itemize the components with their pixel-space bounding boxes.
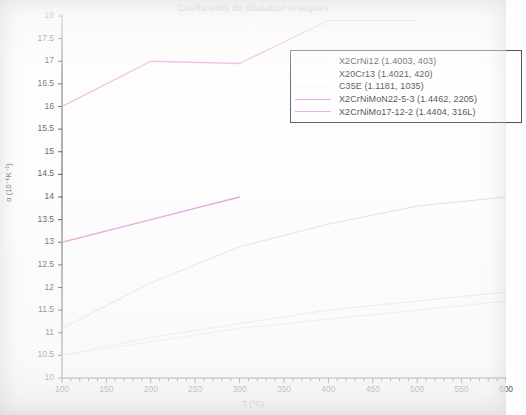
legend-color-swatch [295, 61, 331, 62]
x-tick-label: 500 [397, 384, 437, 394]
y-tick-label: 17 [8, 55, 54, 65]
y-tick-label: 12 [8, 282, 54, 292]
x-tick-label: 350 [264, 384, 304, 394]
y-tick-label: 14.5 [8, 168, 54, 178]
y-tick-label: 10.5 [8, 349, 54, 359]
y-tick-label: 15 [8, 146, 54, 156]
y-tick-label: 16 [8, 101, 54, 111]
x-tick-label: 100 [42, 384, 82, 394]
legend-color-swatch [295, 111, 331, 112]
series-line [62, 197, 506, 328]
y-tick-label: 17.5 [8, 33, 54, 43]
x-tick-label: 150 [86, 384, 126, 394]
legend-label: X2CrNi12 (1.4003, 403) [339, 56, 436, 66]
y-tick-label: 13.5 [8, 214, 54, 224]
y-tick-label: 11 [8, 327, 54, 337]
y-axis-label: α (10⁻⁶K⁻¹) [4, 153, 13, 213]
legend-label: X2CrNiMoN22-5-3 (1.4462, 2205) [339, 94, 477, 104]
legend-color-swatch [295, 99, 331, 100]
legend-color-swatch [295, 73, 331, 74]
y-tick-label: 12.5 [8, 259, 54, 269]
legend-item: X2CrNiMo17-12-2 (1.4404, 316L) [291, 105, 521, 118]
legend-item: X2CrNi12 (1.4003, 403) [291, 55, 521, 68]
y-tick-label: 10 [8, 372, 54, 382]
legend-item: X20Cr13 (1.4021, 420) [291, 68, 521, 81]
y-tick-label: 16.5 [8, 78, 54, 88]
legend-item: C35E (1.1181, 1035) [291, 80, 521, 93]
x-tick-label: 300 [220, 384, 260, 394]
chart-title: Coefficients de dilatation lineiques [0, 2, 506, 13]
x-tick-label: 600 [486, 384, 526, 394]
y-tick-label: 18 [8, 10, 54, 20]
y-tick-label: 14 [8, 191, 54, 201]
x-tick-label: 250 [175, 384, 215, 394]
legend-item: X2CrNiMoN22-5-3 (1.4462, 2205) [291, 93, 521, 106]
x-tick-label: 200 [131, 384, 171, 394]
y-tick-label: 11.5 [8, 304, 54, 314]
x-tick-label: 450 [353, 384, 393, 394]
chart-legend: X2CrNi12 (1.4003, 403)X20Cr13 (1.4021, 4… [290, 50, 522, 123]
legend-label: X20Cr13 (1.4021, 420) [339, 69, 433, 79]
x-axis-label: T (°C) [0, 399, 506, 408]
series-line [62, 197, 240, 242]
y-tick-label: 13 [8, 236, 54, 246]
legend-color-swatch [295, 86, 331, 87]
legend-label: C35E (1.1181, 1035) [339, 81, 424, 91]
x-tick-label: 400 [308, 384, 348, 394]
series-line [62, 301, 506, 355]
y-tick-label: 15.5 [8, 123, 54, 133]
x-tick-label: 550 [442, 384, 482, 394]
legend-label: X2CrNiMo17-12-2 (1.4404, 316L) [339, 107, 476, 117]
